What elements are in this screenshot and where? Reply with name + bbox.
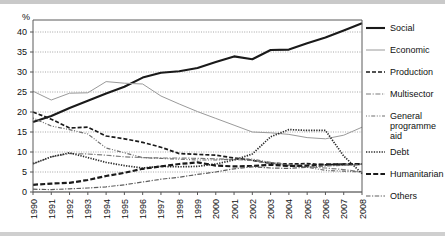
x-tick-label: 1995 xyxy=(120,199,130,219)
series-line-general-programme-aid xyxy=(33,118,362,172)
y-tick-label: 0 xyxy=(22,187,27,197)
x-tick-label: 1999 xyxy=(193,199,203,219)
x-tick-label: 2005 xyxy=(303,199,313,219)
line-chart: 0510152025303540 19901991199219931994199… xyxy=(0,0,445,236)
x-tick-label: 2008 xyxy=(358,199,368,219)
legend-label: aid xyxy=(390,131,402,141)
series-line-economic xyxy=(33,82,362,139)
series-line-social xyxy=(33,23,362,122)
legend-label: General xyxy=(390,111,422,121)
x-tick-label: 1991 xyxy=(47,199,57,219)
series-line-humanitarian xyxy=(33,162,362,184)
x-tick-label: 1997 xyxy=(156,199,166,219)
x-axis-ticks: 1990199119921993199419951996199719981999… xyxy=(29,192,368,219)
y-tick-label: 15 xyxy=(17,127,27,137)
y-tick-label: 30 xyxy=(17,67,27,77)
x-tick-label: 2007 xyxy=(339,199,349,219)
y-tick-label: 25 xyxy=(17,87,27,97)
x-tick-label: 1998 xyxy=(175,199,185,219)
x-tick-label: 1996 xyxy=(138,199,148,219)
x-tick-label: 1993 xyxy=(83,199,93,219)
y-tick-label: 40 xyxy=(17,27,27,37)
y-tick-label: 5 xyxy=(22,167,27,177)
legend-label: Multisector xyxy=(390,89,434,99)
chart-legend: SocialEconomicProductionMultisectorGener… xyxy=(366,23,444,201)
plot-area-wrapper: 0510152025303540 19901991199219931994199… xyxy=(0,0,445,236)
x-tick-label: 2000 xyxy=(211,199,221,219)
y-tick-label: 10 xyxy=(17,147,27,157)
x-tick-label: 2001 xyxy=(230,199,240,219)
legend-label: Economic xyxy=(390,45,430,55)
legend-label: Humanitarian xyxy=(390,169,444,179)
chart-root: % 0510152025303540 199019911992199319941… xyxy=(0,0,445,236)
legend-label: Debt xyxy=(390,147,410,157)
x-tick-label: 1992 xyxy=(65,199,75,219)
legend-label: Production xyxy=(390,67,433,77)
legend-label: Others xyxy=(390,191,418,201)
y-tick-label: 35 xyxy=(17,47,27,57)
x-tick-label: 2002 xyxy=(248,199,258,219)
y-tick-label: 20 xyxy=(17,107,27,117)
x-tick-label: 1994 xyxy=(102,199,112,219)
data-series xyxy=(33,23,362,189)
x-tick-label: 1990 xyxy=(29,199,39,219)
x-tick-label: 2004 xyxy=(284,199,294,219)
x-tick-label: 2006 xyxy=(321,199,331,219)
x-tick-label: 2003 xyxy=(266,199,276,219)
y-axis-ticks: 0510152025303540 xyxy=(17,27,33,197)
legend-label: programme xyxy=(390,121,436,131)
legend-label: Social xyxy=(390,23,415,33)
